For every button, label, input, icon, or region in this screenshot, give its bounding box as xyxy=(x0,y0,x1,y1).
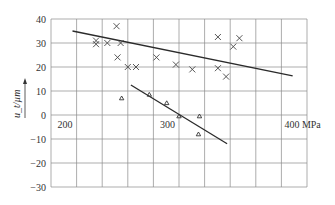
y-tick-label: −20 xyxy=(30,158,46,169)
x-tick-label: 400 MPa xyxy=(284,119,321,130)
y-axis-ticks: 403020100−10−20−30 xyxy=(30,14,46,193)
cross-marker-icon xyxy=(215,65,221,71)
cross-marker-icon xyxy=(223,74,229,80)
triangle-marker-icon xyxy=(165,101,169,105)
y-tick-label: 30 xyxy=(36,38,46,49)
cross-marker-icon xyxy=(215,34,221,40)
y-axis-title: u_t/µm xyxy=(11,89,22,118)
trendlines xyxy=(73,31,293,144)
chart: 403020100−10−20−30 200300400 MPa u_t/µm xyxy=(0,0,335,205)
triangle-marker-icon xyxy=(119,96,123,100)
y-tick-label: 40 xyxy=(36,14,46,25)
y-axis-label: u_t/µm xyxy=(11,78,27,118)
cross-marker-icon xyxy=(115,54,121,60)
triangle-marker-icon xyxy=(196,132,200,136)
y-tick-label: 10 xyxy=(36,86,46,97)
trendline-cross xyxy=(73,31,293,76)
cross-marker-icon xyxy=(114,23,120,29)
x-tick-label: 200 xyxy=(58,119,73,130)
cross-marker-icon xyxy=(230,44,236,50)
x-tick-label: 300 xyxy=(160,119,175,130)
cross-marker-icon xyxy=(236,35,242,41)
y-tick-label: −30 xyxy=(30,182,46,193)
y-tick-label: 20 xyxy=(36,62,46,73)
grid xyxy=(51,19,307,187)
arrow-head-icon xyxy=(23,78,27,84)
triangle-marker-icon xyxy=(197,114,201,118)
y-tick-label: −10 xyxy=(30,134,46,145)
cross-marker-icon xyxy=(93,41,99,47)
y-tick-label: 0 xyxy=(41,110,46,121)
cross-marker-icon xyxy=(153,54,159,60)
